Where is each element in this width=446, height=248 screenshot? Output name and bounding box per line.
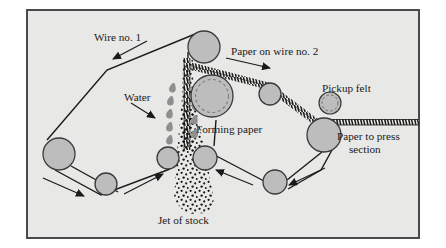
paper-machine-diagram: Wire no. 1 Paper on wire no. 2 Water For…: [0, 0, 446, 248]
label-paper-on-wire-no-2: Paper on wire no. 2: [231, 45, 318, 57]
label-wire-no-1: Wire no. 1: [94, 31, 141, 43]
figure-container: Wire no. 1 Paper on wire no. 2 Water For…: [0, 0, 446, 248]
label-jet-of-stock: Jet of stock: [158, 214, 209, 226]
label-forming-paper: Forming paper: [196, 123, 262, 135]
roller-guide-roll-left: [43, 138, 75, 170]
roller-press-roll: [307, 118, 341, 152]
roller-forming-roll: [191, 75, 233, 117]
label-water: Water: [124, 91, 151, 103]
roller-forming-roll-lower-left: [157, 147, 179, 169]
roller-guide-roll-bottom-left: [95, 173, 117, 195]
roller-return-roll-bottom: [263, 170, 287, 194]
roller-wire2-guide-roll: [259, 83, 281, 105]
label-paper-to-press-line1: Paper to press: [337, 130, 400, 142]
label-paper-to-press-line2: section: [349, 143, 381, 155]
roller-breast-roll-top: [188, 31, 220, 63]
roller-forming-roll-lower-right: [193, 146, 217, 170]
label-pickup-felt: Pickup felt: [322, 82, 372, 94]
